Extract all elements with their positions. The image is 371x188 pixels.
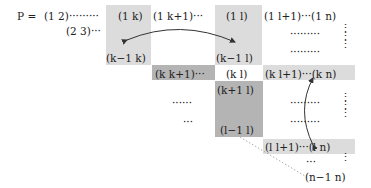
swap-arrow-top (127, 29, 235, 42)
swap-arrow-right (305, 78, 314, 145)
diagonal-dotted-line (240, 137, 305, 176)
arrows-layer (0, 0, 371, 188)
